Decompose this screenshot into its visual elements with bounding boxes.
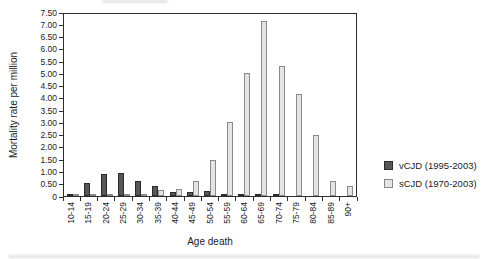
x-tick-mark — [235, 197, 236, 201]
y-tick-label: 1.50 — [20, 156, 57, 165]
legend-swatch-icon — [384, 179, 393, 188]
bar — [347, 186, 353, 196]
x-tick-label: 15-19 — [84, 202, 93, 224]
y-tick-label: 4.50 — [20, 82, 57, 91]
bar — [227, 122, 233, 196]
x-tick-mark — [201, 197, 202, 201]
bar — [124, 194, 130, 196]
x-tick-label: 75-79 — [292, 202, 301, 224]
y-tick-label: 6.00 — [20, 45, 57, 54]
x-tick-mark — [339, 197, 340, 201]
legend-label: sCJD (1970-2003) — [399, 178, 477, 189]
bar — [101, 174, 107, 196]
bar-group-35-39 — [150, 14, 167, 196]
x-tick-mark — [132, 197, 133, 201]
x-tick-mark — [63, 197, 64, 201]
y-tick-label: 0 — [20, 193, 57, 202]
x-tick-mark — [287, 197, 288, 201]
x-tick-label: 25-29 — [119, 202, 128, 224]
bar-group-40-44 — [167, 14, 184, 196]
y-tick-label: 7.00 — [20, 21, 57, 30]
y-tick-label: 2.00 — [20, 143, 57, 152]
x-tick-label: 10-14 — [67, 202, 76, 224]
bar — [330, 181, 336, 196]
bar-group-65-69 — [253, 14, 270, 196]
bar-group-55-59 — [219, 14, 236, 196]
legend: vCJD (1995-2003)sCJD (1970-2003) — [384, 160, 477, 189]
x-tick-mark — [218, 197, 219, 201]
x-tick-label: 20-24 — [102, 202, 111, 224]
bar — [158, 190, 164, 196]
y-tick-label: 4.00 — [20, 94, 57, 103]
bar — [90, 194, 96, 196]
x-tick-mark — [184, 197, 185, 201]
y-axis-title: Mortality rate per million — [8, 52, 19, 158]
x-tick-label: 55-59 — [223, 202, 232, 224]
x-tick-label: 90+ — [344, 202, 353, 216]
x-tick-label: 65-69 — [257, 202, 266, 224]
plot-area — [63, 13, 357, 197]
bar — [141, 194, 147, 196]
x-tick-mark — [149, 197, 150, 201]
x-tick-mark — [322, 197, 323, 201]
legend-item: vCJD (1995-2003) — [384, 160, 477, 171]
bar-group-70-74 — [270, 14, 287, 196]
bar-group-15-19 — [81, 14, 98, 196]
bar — [107, 194, 113, 196]
y-tick-label: 5.00 — [20, 70, 57, 79]
x-tick-label: 35-39 — [154, 202, 163, 224]
bar — [244, 73, 250, 196]
x-tick-mark — [253, 197, 254, 201]
x-tick-label: 60-64 — [240, 202, 249, 224]
bar — [118, 173, 124, 196]
y-tick-label: 0.50 — [20, 180, 57, 189]
x-tick-label: 50-54 — [206, 202, 215, 224]
bar — [176, 189, 182, 196]
bar-group-75-79 — [287, 14, 304, 196]
cjd-mortality-bar-chart: Mortality rate per million 00.501.001.50… — [0, 0, 485, 259]
bar-group-45-49 — [184, 14, 201, 196]
x-tick-mark — [114, 197, 115, 201]
bar — [73, 194, 79, 196]
x-axis-title: Age death — [63, 236, 357, 247]
x-tick-mark — [305, 197, 306, 201]
y-tick-label: 3.50 — [20, 107, 57, 116]
bar — [296, 94, 302, 196]
x-tick-label: 80-84 — [309, 202, 318, 224]
x-tick-mark — [97, 197, 98, 201]
x-tick-mark — [270, 197, 271, 201]
x-tick-mark — [357, 197, 358, 201]
x-tick-label: 85-89 — [327, 202, 336, 224]
bar-group-30-34 — [133, 14, 150, 196]
x-tick-label: 70-74 — [275, 202, 284, 224]
bar-group-10-14 — [64, 14, 81, 196]
cropped-print-artifact-top — [102, 0, 168, 3]
x-tick-mark — [80, 197, 81, 201]
bar-group-20-24 — [98, 14, 115, 196]
bar — [279, 66, 285, 196]
bar — [210, 160, 216, 196]
x-tick-mark — [166, 197, 167, 201]
x-tick-label: 30-34 — [136, 202, 145, 224]
y-tick-label: 5.50 — [20, 58, 57, 67]
y-tick-label: 6.50 — [20, 33, 57, 42]
x-tick-label: 40-44 — [171, 202, 180, 224]
y-tick-label: 7.50 — [20, 9, 57, 18]
legend-item: sCJD (1970-2003) — [384, 178, 477, 189]
legend-swatch-icon — [384, 161, 393, 170]
bar-group-90+ — [339, 14, 356, 196]
bar-group-85-89 — [322, 14, 339, 196]
legend-label: vCJD (1995-2003) — [399, 160, 477, 171]
y-tick-label: 1.00 — [20, 168, 57, 177]
bar — [193, 181, 199, 196]
bar — [313, 135, 319, 196]
cropped-caption-artifact-bottom — [8, 255, 480, 258]
bar-group-25-29 — [116, 14, 133, 196]
bar-group-80-84 — [304, 14, 321, 196]
y-tick-label: 2.50 — [20, 131, 57, 140]
bar-group-60-64 — [236, 14, 253, 196]
bar-group-50-54 — [201, 14, 218, 196]
bar — [261, 21, 267, 196]
x-tick-label: 45-49 — [188, 202, 197, 224]
y-tick-label: 3.00 — [20, 119, 57, 128]
